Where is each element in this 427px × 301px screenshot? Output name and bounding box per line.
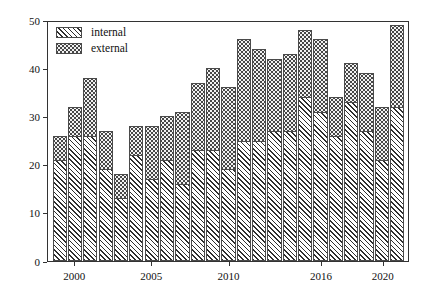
y-tick-label: 20	[29, 160, 43, 171]
legend-label-external: external	[91, 42, 128, 54]
x-tick-mark	[383, 262, 384, 266]
bar-segment-external	[160, 116, 174, 159]
bar-segment-internal	[114, 198, 128, 261]
x-tick-2000: 2000	[74, 262, 75, 266]
bar-column[interactable]	[374, 22, 389, 261]
bar-segment-internal	[252, 141, 266, 262]
bar-segment-external	[175, 112, 189, 184]
bar-column[interactable]	[313, 22, 328, 261]
bar-segment-external	[83, 78, 97, 136]
x-tick-label: 2000	[63, 271, 85, 282]
x-tick-label: 2010	[218, 271, 240, 282]
bar-segment-internal	[221, 169, 235, 261]
x-tick-mark	[151, 262, 152, 266]
x-axis: 20002005201020162020	[47, 262, 409, 301]
legend-item-internal: internal	[56, 26, 128, 38]
bar-segment-external	[283, 54, 297, 131]
bar-segment-internal	[313, 112, 327, 261]
bar-column[interactable]	[175, 22, 190, 261]
bar-segment-external	[252, 49, 266, 141]
chart-root: 01020304050 20002005201020162020 interna…	[0, 0, 427, 301]
bar-segment-internal	[237, 141, 251, 262]
x-tick-2016: 2016	[321, 262, 322, 266]
bar-segment-internal	[145, 179, 159, 261]
bar-segment-external	[114, 174, 128, 198]
bar-segment-external	[344, 63, 358, 102]
bar-segment-external	[53, 136, 67, 160]
bar-column[interactable]	[67, 22, 82, 261]
bar-column[interactable]	[236, 22, 251, 261]
bar-segment-internal	[375, 160, 389, 261]
bar-segment-external	[191, 83, 205, 150]
x-tick-2005: 2005	[151, 262, 152, 266]
bar-column[interactable]	[129, 22, 144, 261]
bar-segment-external	[267, 59, 281, 131]
bar-column[interactable]	[344, 22, 359, 261]
plot-area	[47, 21, 409, 262]
x-tick-2010: 2010	[229, 262, 230, 266]
bar-column[interactable]	[159, 22, 174, 261]
dotted-swatch-icon	[56, 43, 82, 54]
y-tick-label: 0	[35, 257, 44, 268]
bars-layer	[48, 22, 408, 261]
bar-segment-internal	[267, 131, 281, 261]
bar-segment-external	[390, 25, 404, 107]
bar-segment-internal	[68, 136, 82, 261]
bar-segment-internal	[329, 136, 343, 261]
bar-segment-external	[221, 87, 235, 169]
bar-segment-internal	[160, 160, 174, 261]
bar-column[interactable]	[298, 22, 313, 261]
bar-column[interactable]	[98, 22, 113, 261]
bar-segment-external	[375, 107, 389, 160]
bar-segment-external	[313, 39, 327, 111]
x-tick-label: 2005	[140, 271, 162, 282]
bar-segment-internal	[129, 155, 143, 261]
bar-segment-external	[129, 126, 143, 155]
y-tick-label: 30	[29, 112, 43, 123]
legend-label-internal: internal	[91, 26, 126, 38]
bar-column[interactable]	[83, 22, 98, 261]
x-tick-label: 2016	[310, 271, 332, 282]
bar-segment-internal	[206, 150, 220, 261]
bar-segment-internal	[283, 131, 297, 261]
bar-column[interactable]	[328, 22, 343, 261]
bar-segment-internal	[359, 131, 373, 261]
bar-segment-internal	[344, 102, 358, 261]
x-tick-2020: 2020	[383, 262, 384, 266]
bar-segment-internal	[298, 97, 312, 261]
bar-segment-external	[237, 39, 251, 140]
y-tick-label: 50	[29, 16, 43, 27]
bar-segment-external	[145, 126, 159, 179]
bar-segment-external	[206, 68, 220, 150]
bar-segment-internal	[175, 184, 189, 261]
bar-segment-external	[99, 131, 113, 170]
bar-segment-internal	[53, 160, 67, 261]
bar-column[interactable]	[144, 22, 159, 261]
chart-legend: internal external	[56, 26, 128, 54]
bar-segment-external	[68, 107, 82, 136]
bar-column[interactable]	[221, 22, 236, 261]
bar-column[interactable]	[251, 22, 266, 261]
bar-segment-external	[329, 97, 343, 136]
x-tick-mark	[229, 262, 230, 266]
bar-column[interactable]	[52, 22, 67, 261]
bar-column[interactable]	[267, 22, 282, 261]
bar-column[interactable]	[205, 22, 220, 261]
bar-column[interactable]	[282, 22, 297, 261]
bar-segment-internal	[390, 107, 404, 261]
legend-item-external: external	[56, 42, 128, 54]
bar-segment-internal	[83, 136, 97, 261]
x-tick-mark	[74, 262, 75, 266]
bar-segment-external	[298, 30, 312, 97]
bar-column[interactable]	[190, 22, 205, 261]
x-tick-mark	[321, 262, 322, 266]
bar-segment-internal	[191, 150, 205, 261]
y-tick-label: 40	[29, 64, 43, 75]
x-tick-label: 2020	[372, 271, 394, 282]
bar-column[interactable]	[359, 22, 374, 261]
diagonal-hatch-swatch-icon	[56, 27, 82, 38]
bar-segment-external	[359, 73, 373, 131]
bar-column[interactable]	[113, 22, 128, 261]
bar-column[interactable]	[390, 22, 405, 261]
bar-segment-internal	[99, 169, 113, 261]
